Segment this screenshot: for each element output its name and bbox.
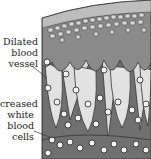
skin-cross-section-illustration <box>0 0 151 159</box>
